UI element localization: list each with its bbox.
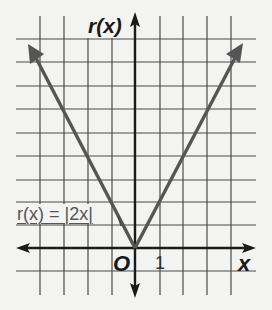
coordinate-plane: [0, 0, 272, 310]
function-label: r(x) = |2x|: [17, 204, 94, 224]
origin-label: O: [113, 251, 130, 277]
y-axis-label: r(x): [87, 14, 123, 38]
x-tick-label-1: 1: [155, 253, 165, 274]
x-axis-label: x: [238, 251, 250, 277]
axes: [16, 12, 256, 298]
